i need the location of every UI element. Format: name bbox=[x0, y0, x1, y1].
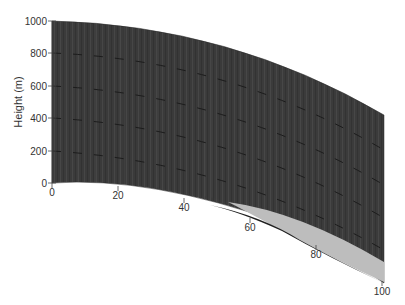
y-axis: 1000 800 600 400 200 0 Height (m) bbox=[12, 16, 56, 189]
x-tick-label: 100 bbox=[374, 286, 391, 297]
x-tick-label: 40 bbox=[178, 202, 190, 213]
radar-section-chart: 1000 800 600 400 200 0 Height (m) 0 20 4… bbox=[0, 0, 405, 305]
y-tick-label: 0 bbox=[41, 178, 47, 189]
y-tick-label: 1000 bbox=[25, 16, 48, 27]
y-tick-label: 200 bbox=[30, 146, 47, 157]
y-tick-label: 400 bbox=[30, 113, 47, 124]
x-tick-label: 0 bbox=[49, 187, 55, 198]
y-tick-label: 800 bbox=[30, 48, 47, 59]
x-tick-label: 20 bbox=[112, 190, 124, 201]
x-tick-label: 80 bbox=[310, 249, 322, 260]
x-tick-label: 60 bbox=[244, 222, 256, 233]
y-tick-label: 600 bbox=[30, 81, 47, 92]
y-axis-title: Height (m) bbox=[12, 76, 24, 127]
